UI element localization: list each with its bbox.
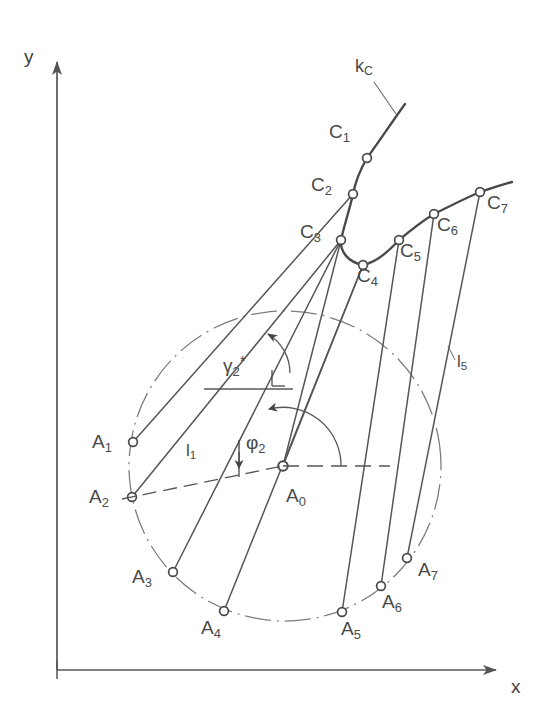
point-label-c4: C4 <box>357 265 378 289</box>
x-axis-label: x <box>511 676 521 698</box>
point-label-c2-sub: 2 <box>325 183 332 198</box>
point-label-c6: C6 <box>437 214 458 238</box>
curve-label-kc: kC <box>355 56 373 78</box>
angle-label-gamma2star: γ2* <box>223 352 246 379</box>
angle-label-gamma2-base: γ <box>223 355 233 376</box>
point-label-c1: C1 <box>329 121 350 145</box>
point-label-a1-base: A <box>92 431 105 452</box>
point-marker-c2 <box>349 190 358 199</box>
point-label-a0-base: A <box>286 485 299 506</box>
axis-x <box>57 661 496 679</box>
point-label-c5: C5 <box>400 240 421 264</box>
point-label-c6-base: C <box>437 214 451 235</box>
point-label-a6-base: A <box>382 591 395 612</box>
point-marker-a6 <box>377 582 386 591</box>
point-label-a3-sub: 3 <box>145 575 152 590</box>
point-label-a7-base: A <box>418 559 431 580</box>
point-label-c4-base: C <box>357 265 371 286</box>
l5-leader-line <box>448 346 455 360</box>
point-label-a0-sub: 0 <box>299 494 306 509</box>
point-marker-a7 <box>403 554 412 563</box>
point-label-c7-sub: 7 <box>501 201 508 216</box>
angle-label-phi2-sub: 2 <box>258 441 265 456</box>
point-label-a6: A6 <box>382 591 402 615</box>
point-label-c1-sub: 1 <box>343 130 350 145</box>
point-marker-a3 <box>169 568 178 577</box>
l1-dimension-line <box>122 466 283 499</box>
point-label-a3: A3 <box>132 566 152 590</box>
point-label-a3-base: A <box>132 566 145 587</box>
angle-label-phi2: φ2 <box>246 432 266 456</box>
point-marker-a1 <box>129 438 138 447</box>
point-label-c3-base: C <box>300 221 314 242</box>
dimension-label-l1-sub: 1 <box>190 449 196 461</box>
y-axis-label: y <box>24 46 34 68</box>
point-label-a6-sub: 6 <box>395 600 402 615</box>
point-label-a2: A2 <box>89 486 109 510</box>
gamma2-arc <box>268 334 290 373</box>
point-label-a2-sub: 2 <box>102 495 109 510</box>
point-label-c5-base: C <box>400 240 414 261</box>
link-a0-c4 <box>283 265 363 466</box>
angle-label-gamma2-sup: * <box>240 352 246 369</box>
link-a0-c3 <box>283 240 341 466</box>
point-label-c7-base: C <box>487 192 501 213</box>
point-label-a2-base: A <box>89 486 102 507</box>
a-point-markers <box>128 438 412 617</box>
point-label-a5: A5 <box>341 618 361 642</box>
point-label-c2-base: C <box>311 174 325 195</box>
point-label-c7: C7 <box>487 192 508 216</box>
point-label-a1-sub: 1 <box>105 440 112 455</box>
point-label-a0: A0 <box>286 485 306 509</box>
point-label-c1-base: C <box>329 121 343 142</box>
point-label-a5-sub: 5 <box>354 627 361 642</box>
angle-label-gamma2-sub: 2 <box>233 364 240 379</box>
point-marker-a5 <box>338 608 347 617</box>
point-label-a7-sub: 7 <box>431 568 438 583</box>
angle-label-phi2-base: φ <box>246 432 258 453</box>
point-label-a7: A7 <box>418 559 438 583</box>
point-label-c4-sub: 4 <box>371 274 378 289</box>
curve-label-kc-sub: C <box>364 64 373 78</box>
point-marker-c7 <box>476 188 485 197</box>
point-label-c2: C2 <box>311 174 332 198</box>
point-label-c3-sub: 3 <box>314 230 321 245</box>
point-label-c3: C3 <box>300 221 321 245</box>
diagram-canvas: y x kC C1 C2 C3 C4 C5 C6 C7 A1 A2 A3 A4 … <box>0 0 549 726</box>
curve-label-kc-base: k <box>355 56 364 76</box>
kc-leader-line <box>374 82 396 114</box>
dimension-label-l5-sub: 5 <box>461 360 467 372</box>
point-label-a1: A1 <box>92 431 112 455</box>
point-marker-a4 <box>220 607 229 616</box>
point-marker-c1 <box>363 154 372 163</box>
point-label-a5-base: A <box>341 618 354 639</box>
dimension-label-l1: l1 <box>186 441 196 461</box>
phi2-arc <box>269 407 341 466</box>
curve-kc <box>341 104 512 265</box>
point-marker-c3 <box>337 236 346 245</box>
dimension-label-l5: l5 <box>457 352 467 372</box>
link-a3-c3 <box>173 240 341 572</box>
point-label-c5-sub: 5 <box>414 249 421 264</box>
point-label-a4-sub: 4 <box>214 626 221 641</box>
point-label-a4: A4 <box>201 617 221 641</box>
point-label-a4-base: A <box>201 617 214 638</box>
point-label-c6-sub: 6 <box>451 223 458 238</box>
